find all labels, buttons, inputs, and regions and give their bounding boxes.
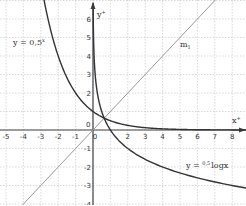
axes — [0, 2, 246, 205]
x-tick-label: -1 — [72, 133, 79, 141]
y-tick-label: -4 — [84, 201, 92, 206]
y-tick-label: -2 — [84, 164, 91, 172]
x-tick-label: 4 — [160, 133, 165, 141]
label-exp-curve: y = 0,5x — [12, 37, 45, 47]
x-tick-label: -3 — [37, 133, 44, 141]
y-tick-label: 4 — [87, 53, 92, 61]
function-graph: -5-4-3-2-102345678-4-3-2-123456 y = 0,5x… — [0, 0, 246, 205]
x-tick-label: 6 — [195, 133, 200, 141]
x-tick-label: 7 — [213, 133, 217, 141]
line-m1 — [18, 0, 218, 205]
y-tick-label: 6 — [87, 16, 92, 24]
y-tick-label: 3 — [87, 71, 91, 79]
x-tick-label: -2 — [55, 133, 62, 141]
x-tick-label: 8 — [230, 133, 234, 141]
x-tick-label: -4 — [20, 133, 28, 141]
grid — [0, 0, 246, 205]
x-tick-label: 0 — [93, 133, 97, 141]
x-tick-label: 3 — [143, 133, 147, 141]
label-x-axis: x+ — [232, 115, 241, 125]
label-line-m1: m1 — [180, 40, 191, 50]
label-log-curve: y = 0,5logx — [185, 160, 229, 170]
y-tick-label: -1 — [84, 145, 91, 153]
label-y-axis: y+ — [96, 9, 106, 19]
x-tick-label: 5 — [178, 133, 182, 141]
x-tick-label: 2 — [126, 133, 130, 141]
y-tick-label: 2 — [87, 90, 91, 98]
y-tick-label: 5 — [87, 34, 91, 42]
y-tick-label: -3 — [84, 182, 91, 190]
label-origin: 0 — [86, 121, 90, 129]
x-tick-label: -5 — [3, 133, 10, 141]
